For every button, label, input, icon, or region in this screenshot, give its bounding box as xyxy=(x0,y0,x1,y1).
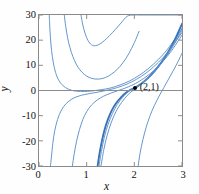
y-tick-label-neg10: -10 xyxy=(0,111,36,122)
y-tick-label-10: 10 xyxy=(0,60,36,71)
plot-area xyxy=(38,14,183,167)
chart-curve-curve-2 xyxy=(50,33,182,166)
figure-canvas: 30 20 10 0 -10 -20 -30 0 1 2 3 y x (2,1) xyxy=(0,0,199,194)
chart-curve-curve-1 xyxy=(49,15,182,92)
annotation-point-marker xyxy=(133,86,137,90)
chart-curve-curve-6 xyxy=(81,15,182,46)
chart-curve-curve-7 xyxy=(64,15,139,79)
y-tick-label-30: 30 xyxy=(0,10,36,21)
y-axis-label: y xyxy=(0,86,10,91)
x-tick-label-1: 1 xyxy=(77,170,95,181)
x-tick-label-0: 0 xyxy=(29,170,47,181)
x-axis-label: x xyxy=(104,180,109,192)
y-tick-label-20: 20 xyxy=(0,35,36,46)
annotation-point-label: (2,1) xyxy=(140,82,159,92)
x-tick-label-3: 3 xyxy=(174,170,192,181)
curves-svg xyxy=(39,15,182,166)
x-tick-label-2: 2 xyxy=(125,170,143,181)
chart-curve-curve-4 xyxy=(98,24,182,166)
y-tick-label-neg20: -20 xyxy=(0,137,36,148)
chart-curve-curve-8 xyxy=(138,53,182,166)
